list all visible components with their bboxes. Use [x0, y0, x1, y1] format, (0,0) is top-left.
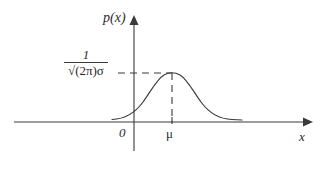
peak-value-denominator: √(2π)σ — [64, 63, 108, 77]
peak-value-numerator: 1 — [64, 48, 108, 63]
mean-label: μ — [166, 127, 173, 140]
peak-value-radical: √(2π) — [68, 63, 97, 78]
figure-canvas — [0, 0, 320, 170]
gaussian-curve — [112, 73, 242, 120]
x-axis-label: x — [299, 130, 305, 143]
x-axis-arrowhead — [303, 117, 313, 126]
y-axis-label: p(x) — [103, 11, 126, 25]
peak-value-sigma: σ — [97, 63, 104, 78]
origin-label: 0 — [119, 126, 126, 139]
peak-value-label: 1 √(2π)σ — [64, 48, 108, 77]
y-axis-arrowhead — [130, 15, 139, 25]
gaussian-distribution-figure: p(x) x 0 μ 1 √(2π)σ — [0, 0, 320, 170]
